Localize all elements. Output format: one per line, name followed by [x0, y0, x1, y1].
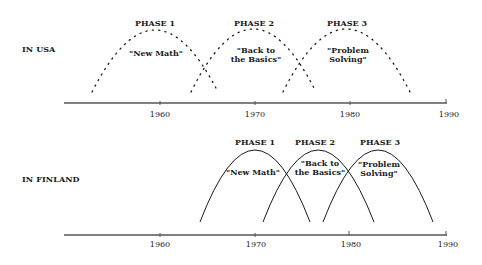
- finland-phase-2-name-line2: the Basics": [295, 167, 345, 177]
- finland-phase-3-label: PHASE 3: [360, 137, 400, 147]
- math-reform-phases-diagram: IN USA PHASE 1 PHASE 2 PHASE 3 "New Math…: [0, 0, 482, 265]
- finland-panel: IN FINLAND PHASE 1 PHASE 2 PHASE 3 "New …: [22, 137, 458, 249]
- finland-phase-1-curve: [200, 150, 310, 222]
- finland-row-label: IN FINLAND: [22, 174, 80, 184]
- usa-tick-label-1980: 1980: [340, 110, 360, 119]
- usa-phase-3-label: PHASE 3: [327, 18, 367, 28]
- finland-tick-label-1980: 1980: [341, 240, 361, 249]
- usa-phase-1-curve: [92, 30, 218, 92]
- finland-tick-label-1970: 1970: [246, 240, 266, 249]
- finland-phase-2-label: PHASE 2: [295, 137, 335, 147]
- finland-phase-3-name-line2: Solving": [360, 168, 397, 178]
- usa-tick-label-1970: 1970: [245, 110, 265, 119]
- usa-row-label: IN USA: [22, 44, 56, 54]
- finland-phase-1-name: "New Math": [226, 167, 280, 177]
- usa-phase-2-name-line2: the Basics": [231, 54, 281, 64]
- usa-tick-label-1990: 1990: [439, 110, 459, 119]
- usa-panel: IN USA PHASE 1 PHASE 2 PHASE 3 "New Math…: [22, 18, 459, 119]
- usa-tick-label-1960: 1960: [150, 110, 170, 119]
- usa-phase-1-label: PHASE 1: [135, 18, 175, 28]
- finland-tick-label-1960: 1960: [150, 240, 170, 249]
- usa-phase-3-name-line2: Solving": [329, 54, 366, 64]
- usa-phase-1-name: "New Math": [129, 48, 183, 58]
- finland-tick-label-1990: 1990: [438, 240, 458, 249]
- usa-phase-2-label: PHASE 2: [234, 18, 274, 28]
- finland-phase-1-label: PHASE 1: [235, 137, 275, 147]
